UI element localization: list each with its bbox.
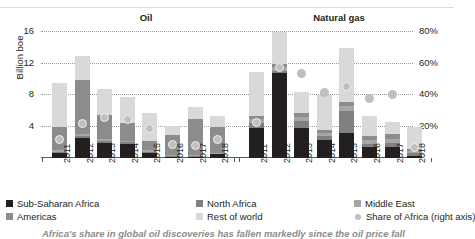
legend-item: Sub-Saharan Africa xyxy=(6,198,99,209)
bar-segment xyxy=(317,136,332,140)
bar-segment xyxy=(339,102,354,106)
share-of-africa-marker xyxy=(123,115,132,124)
legend-item: North Africa xyxy=(196,198,257,209)
legend-label: Share of Africa (right axis) xyxy=(366,211,475,222)
chart-caption: Africa's share in global oil discoveries… xyxy=(42,228,442,239)
legend-swatch-icon xyxy=(196,213,203,220)
top-divider xyxy=(0,7,454,8)
x-axis-tick-label: 2016 xyxy=(176,143,185,163)
share-of-africa-marker xyxy=(320,88,329,97)
x-axis-tick-label: 2014 xyxy=(131,143,140,163)
bar-segment xyxy=(339,48,354,102)
legend-item: Rest of world xyxy=(196,211,262,222)
legend-item: Share of Africa (right axis) xyxy=(354,211,475,222)
x-axis-tick-label: 2014 xyxy=(328,143,337,163)
bar-segment xyxy=(317,95,332,130)
legend-label: Sub-Saharan Africa xyxy=(17,198,99,209)
stacked-bar xyxy=(339,48,354,158)
x-axis-tick-label: 2017 xyxy=(199,143,208,163)
y-axis-right-tick-label: 40% xyxy=(419,89,453,99)
bar-segment xyxy=(75,56,90,80)
share-of-africa-marker xyxy=(342,82,351,91)
bar-segment xyxy=(97,89,112,116)
bar-segment xyxy=(294,113,309,117)
bar-segment xyxy=(294,117,309,121)
x-axis-tick-label: 2018 xyxy=(418,143,427,163)
legend-item: Middle East xyxy=(354,198,415,209)
x-axis-tick-label: 2015 xyxy=(350,143,359,163)
bar-segment xyxy=(385,122,400,135)
axis-tick xyxy=(431,158,432,162)
share-of-africa-marker xyxy=(275,63,284,72)
bar-segment xyxy=(75,134,90,136)
bar-segment xyxy=(120,123,135,141)
bar-segment xyxy=(362,116,377,136)
bar-segment xyxy=(317,133,332,136)
x-axis-tick-label: 2012 xyxy=(283,143,292,163)
legend-swatch-icon xyxy=(196,200,203,207)
x-axis-tick-label: 2013 xyxy=(108,143,117,163)
bar-segment xyxy=(362,136,377,140)
x-axis-tick-label: 2018 xyxy=(221,143,230,163)
x-axis-tick-label: 2013 xyxy=(305,143,314,163)
y-axis-right-tick-label: 20% xyxy=(419,121,453,131)
x-axis-tick-label: 2016 xyxy=(373,143,382,163)
legend-swatch-icon xyxy=(354,200,361,207)
bar-segment xyxy=(385,134,400,139)
y-axis-left-tick-label: 12 xyxy=(12,58,34,68)
x-axis-tick-label: 2012 xyxy=(86,143,95,163)
legend-marker-icon xyxy=(355,214,361,220)
bar-segment xyxy=(294,121,309,128)
share-of-africa-marker xyxy=(297,69,306,78)
bar-segment xyxy=(339,111,354,133)
x-axis-tick-label: 2011 xyxy=(260,144,269,163)
y-axis-right-tick-label: 80% xyxy=(419,26,453,36)
legend-label: Americas xyxy=(17,211,57,222)
bar-segment xyxy=(272,32,287,64)
x-axis-tick-label: 2015 xyxy=(153,143,162,163)
share-of-africa-marker xyxy=(252,118,261,127)
y-axis-left-tick-label: 4 xyxy=(12,121,34,131)
share-of-africa-marker xyxy=(78,119,87,128)
y-axis-right-tick-label: 60% xyxy=(419,58,453,68)
y-axis-left-tick-label: 8 xyxy=(12,89,34,99)
legend-label: North Africa xyxy=(207,198,257,209)
legend-label: Middle East xyxy=(365,198,415,209)
share-of-africa-marker xyxy=(388,90,397,99)
bar-segment xyxy=(294,92,309,113)
share-of-africa-marker xyxy=(365,94,374,103)
y-axis-left-tick-label: 16 xyxy=(12,26,34,36)
legend: Sub-Saharan AfricaNorth AfricaMiddle Eas… xyxy=(6,198,454,224)
axis-tick xyxy=(234,158,235,162)
bar-segment xyxy=(75,136,90,138)
legend-swatch-icon xyxy=(6,200,13,207)
legend-label: Rest of world xyxy=(207,211,262,222)
bar-segment xyxy=(188,107,203,119)
axis-tick xyxy=(42,158,43,162)
bar-segment xyxy=(97,139,112,141)
stacked-bar xyxy=(272,32,287,158)
bar-segment xyxy=(52,83,67,127)
x-axis-tick-label: 2017 xyxy=(396,143,405,163)
panel-title-oil: Oil xyxy=(96,12,196,23)
bar-segment xyxy=(317,130,332,133)
legend-swatch-icon xyxy=(6,213,13,220)
bar-segment xyxy=(165,126,180,135)
x-axis-tick-label: 2011 xyxy=(63,144,72,163)
legend-item: Americas xyxy=(6,211,57,222)
axis-tick xyxy=(239,158,240,162)
plot-area xyxy=(41,24,413,158)
panel-title-natural-gas: Natural gas xyxy=(284,12,394,23)
bar-segment xyxy=(210,116,225,127)
bar-segment xyxy=(249,72,264,116)
bar-segment xyxy=(339,106,354,111)
